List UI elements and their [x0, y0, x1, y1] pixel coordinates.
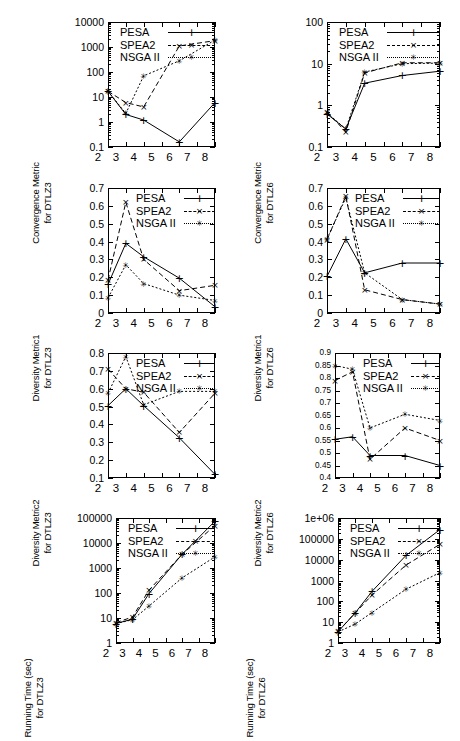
- y-tick: [327, 147, 332, 148]
- x-tick-label: 7: [401, 318, 421, 330]
- legend-sample-pesa: +: [184, 363, 215, 364]
- data-point-marker: ×: [122, 98, 130, 107]
- x-tick: [215, 142, 216, 147]
- legend-label-spea2: SPEA2: [350, 535, 385, 548]
- y-tick: [210, 643, 215, 644]
- data-point-marker: +: [398, 259, 407, 268]
- x-tick: [215, 353, 216, 358]
- data-point-marker: ✳: [122, 260, 129, 269]
- y-tick-label: 0.45: [230, 460, 331, 471]
- data-point-marker: ✳: [105, 389, 112, 398]
- x-tick: [440, 142, 441, 147]
- data-point-marker: +: [435, 67, 444, 76]
- legend-marker-pesa: +: [191, 524, 200, 533]
- legend-marker-nsga2: ✳: [422, 384, 429, 393]
- legend-marker-spea2: ×: [196, 371, 204, 380]
- legend-marker-spea2: ×: [188, 40, 196, 49]
- x-tick-label: 8: [195, 318, 215, 330]
- data-point-marker: ×: [178, 550, 186, 559]
- data-point-marker: ✳: [324, 234, 331, 243]
- data-point-marker: ×: [366, 455, 374, 464]
- y-tick-label: 1000: [230, 575, 334, 586]
- y-tick: [108, 313, 113, 314]
- y-tick-label: 0: [0, 308, 104, 319]
- x-tick-label: 3: [326, 152, 346, 164]
- y-tick-label: 0.2: [230, 272, 323, 283]
- y-tick-label: 10000: [230, 554, 334, 565]
- y-tick-label: 10: [0, 92, 104, 103]
- legend-label-pesa: PESA: [136, 192, 165, 205]
- y-tick: [435, 478, 440, 479]
- y-tick-label: 1: [0, 638, 112, 649]
- x-tick-label: 6: [382, 318, 402, 330]
- legend-sample-spea2: ×: [387, 45, 440, 46]
- data-point-marker: ×: [140, 102, 148, 111]
- x-tick: [215, 188, 216, 193]
- y-tick: [338, 643, 343, 644]
- data-point-marker: ✳: [369, 608, 376, 617]
- data-point-marker: ✳: [212, 296, 219, 305]
- y-tick-label: 0.8: [0, 348, 104, 359]
- legend-marker-nsga2: ✳: [188, 53, 195, 62]
- y-axis-title-runtime-dtlz6: Running Time (sec)for DTLZ6: [244, 638, 270, 741]
- legend-marker-spea2: ×: [415, 536, 423, 545]
- legend-label-nsga2: NSGA II: [120, 51, 160, 64]
- legend-marker-nsga2: ✳: [196, 219, 203, 228]
- y-tick-label: 1000: [0, 563, 112, 574]
- legend-sample-spea2: ×: [184, 376, 215, 377]
- legend-label-pesa: PESA: [363, 357, 392, 370]
- x-tick: [440, 188, 441, 193]
- data-point-marker: ✳: [335, 627, 342, 636]
- data-point-marker: +: [435, 259, 444, 268]
- y-tick-label: 0.7: [0, 183, 104, 194]
- series-path-pesa: [327, 71, 440, 129]
- y-tick: [435, 643, 440, 644]
- y-tick-label: 0.8: [230, 373, 331, 384]
- y-tick-label: 10000: [0, 538, 112, 549]
- legend-label-pesa: PESA: [339, 26, 368, 39]
- data-point-marker: ✳: [179, 573, 186, 582]
- legend-sample-spea2: ×: [184, 211, 215, 212]
- series-path-pesa: [108, 389, 215, 475]
- data-point-marker: ×: [211, 281, 219, 290]
- data-point-marker: +: [103, 401, 112, 410]
- y-axis-title-line2: for DTLZ6: [256, 638, 268, 741]
- legend-sample-nsga2: ✳: [387, 57, 440, 58]
- y-tick-label: 0.6: [230, 423, 331, 434]
- legend-sample-pesa: +: [387, 32, 440, 33]
- data-point-marker: ✳: [129, 615, 136, 624]
- data-point-marker: +: [210, 98, 219, 107]
- data-point-marker: ✳: [176, 387, 183, 396]
- legend-sample-spea2: ×: [403, 211, 440, 212]
- legend-marker-pesa: +: [187, 28, 196, 37]
- y-axis-title-line1: Running Time (sec): [244, 638, 256, 741]
- legend-marker-nsga2: ✳: [416, 549, 423, 558]
- legend-sample-spea2: ×: [411, 376, 440, 377]
- legend-label-pesa: PESA: [120, 26, 149, 39]
- data-point-marker: +: [139, 116, 148, 125]
- y-tick-label: 0.85: [230, 360, 331, 371]
- y-tick-label: 0.4: [230, 473, 331, 484]
- data-point-marker: ✳: [367, 424, 374, 433]
- y-tick: [435, 313, 440, 314]
- y-tick-label: 0.5: [230, 218, 323, 229]
- data-point-marker: ✳: [342, 125, 349, 134]
- data-point-marker: ×: [176, 41, 184, 50]
- panel-diversity2-dtlz6: Diversity Metric2for DTLZ60.40.450.50.55…: [230, 344, 460, 509]
- data-point-marker: +: [330, 435, 339, 444]
- legend-label-pesa: PESA: [136, 357, 165, 370]
- y-tick-label: 100: [230, 596, 334, 607]
- data-point-marker: ×: [176, 428, 184, 437]
- legend-marker-spea2: ×: [422, 371, 430, 380]
- data-point-marker: +: [398, 71, 407, 80]
- y-tick-label: 1: [0, 117, 104, 128]
- y-tick-label: 0.6: [0, 201, 104, 212]
- data-point-marker: ✳: [113, 619, 120, 628]
- y-tick-label: 0.5: [230, 448, 331, 459]
- y-tick-label: 0.55: [230, 435, 331, 446]
- y-axis-title-line2: for DTLZ3: [34, 638, 46, 741]
- legend-marker-spea2: ×: [418, 206, 426, 215]
- y-tick: [435, 147, 440, 148]
- data-point-marker: ×: [361, 285, 369, 294]
- x-tick-label: 6: [382, 152, 402, 164]
